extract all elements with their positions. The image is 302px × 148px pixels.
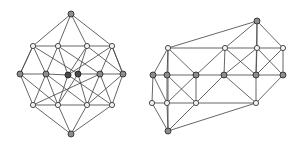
graph-node xyxy=(164,72,170,78)
graph-node xyxy=(221,72,227,78)
graph-node xyxy=(43,71,49,77)
graph-node xyxy=(109,43,114,48)
graph-edge xyxy=(71,105,87,134)
graph-node xyxy=(84,43,89,48)
graph-node xyxy=(222,45,227,50)
right-graph-edges xyxy=(152,21,283,131)
graph-canvas xyxy=(0,0,302,148)
graph-node xyxy=(253,72,259,78)
graph-edge xyxy=(20,46,33,74)
graph-edge xyxy=(71,14,112,46)
graph-node xyxy=(97,71,103,77)
graph-node xyxy=(253,100,258,105)
graph-edge xyxy=(196,48,225,75)
graph-figure xyxy=(0,0,302,148)
graph-edge xyxy=(58,105,71,134)
graph-node xyxy=(30,102,35,107)
graph-edge xyxy=(33,14,71,46)
right-graph-nodes xyxy=(149,18,286,134)
graph-edge xyxy=(224,75,256,103)
graph-node xyxy=(30,43,35,48)
graph-edge xyxy=(100,74,112,105)
graph-edge xyxy=(78,74,87,105)
graph-edge xyxy=(58,46,68,75)
graph-edge xyxy=(153,48,168,75)
graph-edge xyxy=(196,75,224,103)
graph-edge xyxy=(168,21,257,48)
graph-edge xyxy=(71,105,112,134)
graph-node xyxy=(150,72,156,78)
graph-edge xyxy=(256,75,283,103)
graph-node xyxy=(17,71,23,77)
graph-node xyxy=(75,71,81,77)
graph-edge xyxy=(33,105,71,134)
graph-node xyxy=(68,131,74,137)
graph-edge xyxy=(153,75,167,103)
graph-node xyxy=(193,72,199,78)
graph-node xyxy=(55,43,60,48)
graph-node xyxy=(280,45,285,50)
left-graph-edges xyxy=(20,14,123,134)
graph-edge xyxy=(71,14,87,46)
graph-edge xyxy=(20,74,33,105)
graph-edge xyxy=(152,103,168,131)
graph-edge xyxy=(168,48,196,75)
graph-edge xyxy=(58,14,71,46)
graph-node xyxy=(84,102,89,107)
graph-edge xyxy=(58,74,78,105)
graph-edge xyxy=(224,48,257,75)
graph-edge xyxy=(225,21,257,48)
graph-edge xyxy=(152,75,153,103)
graph-node xyxy=(193,100,198,105)
graph-node xyxy=(149,100,154,105)
nodes-layer xyxy=(17,11,286,137)
graph-node xyxy=(254,45,259,50)
graph-node xyxy=(65,72,71,78)
graph-node xyxy=(280,72,286,78)
graph-node xyxy=(254,18,260,24)
graph-node xyxy=(164,100,169,105)
graph-node xyxy=(120,71,126,77)
graph-node xyxy=(165,45,170,50)
graph-edge xyxy=(257,21,283,48)
graph-edge xyxy=(168,103,256,131)
graph-node xyxy=(68,11,74,17)
graph-node xyxy=(55,102,60,107)
graph-node xyxy=(109,102,114,107)
graph-node xyxy=(165,128,171,134)
graph-edge xyxy=(224,48,225,75)
